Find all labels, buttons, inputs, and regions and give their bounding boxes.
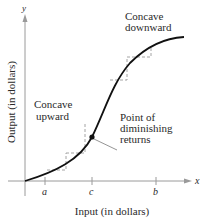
x-axis-title: Input (in dollars) <box>75 205 150 218</box>
concave-upward-label-line1: Concave <box>34 98 73 110</box>
x-axis-arrow-icon <box>184 179 192 184</box>
inflection-point-marker <box>89 134 94 139</box>
concave-upward-label-line2: upward <box>36 110 69 122</box>
y-axis-arrow-icon <box>23 14 28 22</box>
tick-label-a: a <box>42 186 47 197</box>
y-var-label: y <box>21 3 26 13</box>
guide-step-2 <box>66 122 85 153</box>
inflection-leader-line <box>94 139 117 150</box>
tick-label-b: b <box>153 186 158 197</box>
guide-step-3 <box>110 57 127 80</box>
y-axis-title: Output (in dollars) <box>5 61 18 143</box>
guide-step-1 <box>47 153 66 170</box>
inflection-label-line3: returns <box>120 133 151 145</box>
x-var-label: x <box>194 175 200 186</box>
tick-label-c: c <box>89 186 94 197</box>
diminishing-returns-diagram: y x a c b Input (in dollars) Output (in … <box>0 0 201 222</box>
concave-downward-label-line2: downward <box>125 21 172 33</box>
